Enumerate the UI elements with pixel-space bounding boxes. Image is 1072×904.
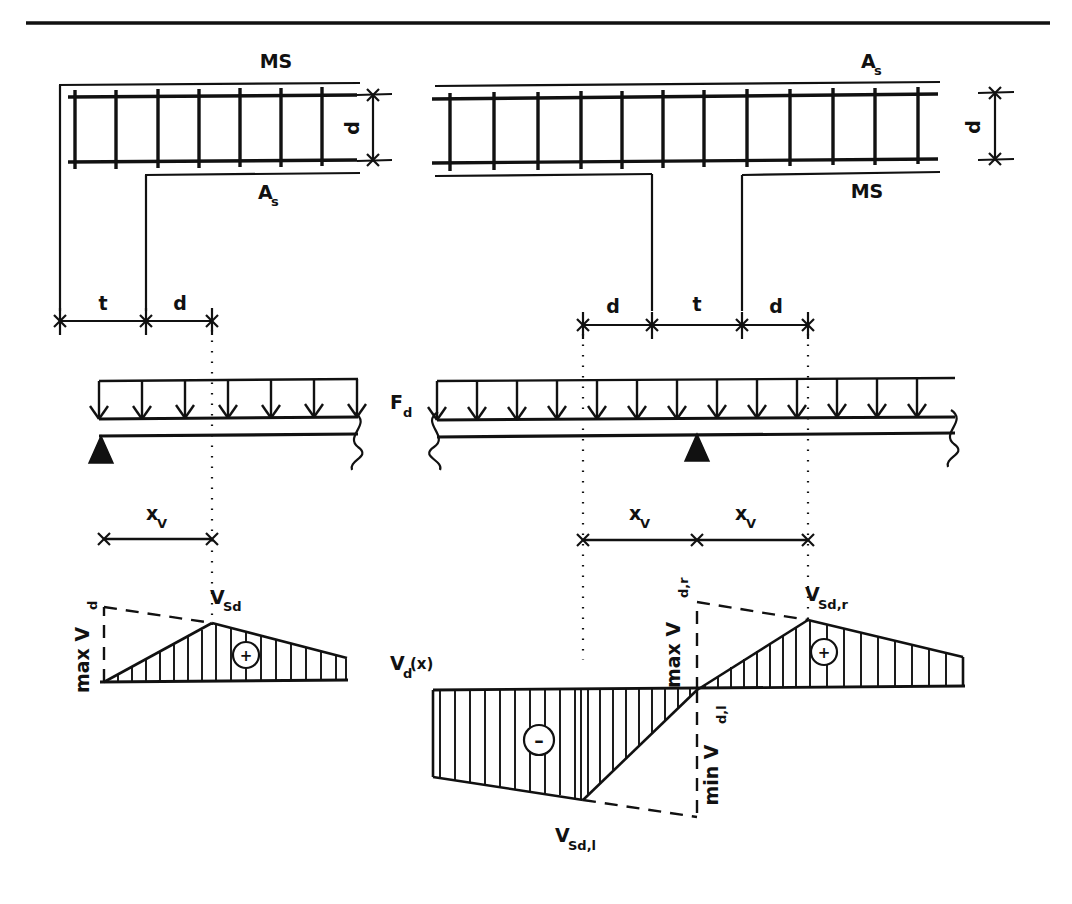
right-shear-positive-rising-branch [697, 620, 808, 690]
right-loaded-beam [428, 378, 958, 470]
left-beam-bottom-rebar [68, 160, 357, 162]
load-arrow [305, 379, 323, 417]
right-beam-bottom-edge-right [742, 172, 940, 175]
load-arrow [348, 379, 366, 417]
load-arrow [708, 379, 726, 418]
right-beam-depth-dimension: d [962, 87, 1014, 165]
load-arrow [548, 380, 566, 419]
left-beam-top-label: MS [260, 50, 293, 72]
load-intensity-label: F d [390, 391, 412, 420]
load-arrow [176, 380, 194, 418]
left-dim-t-label: t [98, 292, 107, 314]
right-shear-negative-hatch-group [440, 689, 690, 799]
right-beam-top-edge [435, 82, 940, 86]
right-min-vdl-label-sub: d,l [714, 705, 729, 724]
right-vsdl-label-sub: Sd,l [568, 838, 596, 853]
left-max-vd-label-main: max V [71, 627, 93, 693]
right-load-arrow-group [428, 378, 926, 420]
right-beam-break-symbol-right [948, 410, 959, 467]
left-loaded-beam [89, 379, 366, 470]
left-beam-depth-dimension: d [341, 89, 392, 166]
load-arrow [219, 380, 237, 418]
right-dim-t-label: t [692, 293, 701, 315]
left-beam-depth-label: d [341, 121, 363, 135]
right-beam-bottom-label: MS [851, 180, 884, 202]
right-min-vdl-label: min V d,l [700, 705, 729, 805]
left-max-vd-label-sub: d [85, 601, 100, 610]
load-arrow [90, 381, 108, 419]
left-beam-bottom-label: A s [258, 181, 279, 209]
load-arrow [868, 378, 886, 417]
right-beam-bottom-rebar [432, 159, 938, 163]
right-shear-axis-label-tail: (x) [410, 655, 433, 673]
load-arrow [508, 381, 526, 420]
left-beam-support-triangle [89, 436, 113, 463]
load-arrow [628, 380, 646, 419]
left-xv-label-sub: V [157, 516, 167, 531]
right-shear-positive-sign-glyph: + [818, 644, 831, 662]
right-max-vdr-label-sub: d,r [676, 577, 691, 598]
right-max-vdr-label-main: max V [662, 622, 684, 688]
figure-canvas: MS A s d [0, 0, 1072, 904]
right-beam-top-rebar [432, 94, 938, 99]
right-xv-right-label-sub: V [746, 516, 756, 531]
right-beam-support-triangle [685, 434, 709, 461]
left-shear-positive-sign: + [233, 642, 259, 668]
right-vsdr-label: V Sd,r [805, 583, 849, 612]
load-arrow [908, 378, 926, 417]
load-arrow [668, 380, 686, 419]
structural-shear-diagram: MS A s d [0, 0, 1072, 904]
right-xv-dimension: x V x V [577, 502, 814, 546]
left-load-arrow-group [90, 379, 366, 419]
load-arrow [588, 380, 606, 419]
right-beam-bottom-edge-left [435, 174, 652, 176]
left-dim-d-label: d [173, 292, 187, 314]
left-shear-diagram: + [100, 607, 348, 682]
left-beam-top-rebar [68, 95, 357, 97]
right-shear-axis-label: V d (x) [390, 652, 433, 681]
load-arrow [748, 379, 766, 418]
right-dimension-chain: d t d [577, 293, 814, 339]
right-beam-depth-label: d [962, 120, 984, 134]
right-dim-d-right-label: d [769, 295, 783, 317]
right-beam-top-label: A s [861, 50, 882, 78]
left-beam-stirrup-group [75, 87, 322, 169]
left-shear-baseline [100, 680, 348, 682]
right-shear-dashed-negative-extension [583, 800, 697, 817]
load-arrow [133, 381, 151, 419]
left-beam-axis [99, 434, 358, 436]
right-max-vdr-label: max V d,r [662, 577, 691, 688]
left-shear-hatch-group [118, 624, 346, 682]
right-vsdl-label: V Sd,l [555, 824, 596, 853]
right-vsdr-label-sub: Sd,r [818, 597, 849, 612]
right-shear-dashed-positive-peak-line [697, 602, 808, 620]
left-vsd-label: V Sd [210, 586, 242, 614]
load-arrow [428, 381, 446, 420]
load-arrow [788, 379, 806, 418]
left-beam-top-edge [59, 83, 360, 85]
load-intensity-label-main: F [390, 391, 403, 413]
left-max-vd-label: max V d [71, 601, 100, 693]
left-beam-elevation [59, 83, 360, 311]
load-arrow [468, 381, 486, 420]
left-shear-dashed-peak-line [104, 607, 212, 623]
right-dim-d-left-label: d [606, 295, 620, 317]
load-arrow [828, 378, 846, 417]
left-beam-bottom-label-sub: s [271, 194, 279, 209]
left-beam-break-symbol [352, 413, 363, 470]
right-shear-negative-sign: – [524, 725, 554, 755]
right-shear-diagram: – + [433, 602, 965, 817]
right-shear-negative-sign-glyph: – [534, 729, 544, 751]
right-min-vdl-label-main: min V [700, 744, 722, 805]
left-shear-rising-branch [104, 623, 212, 682]
right-beam-top-label-sub: s [874, 63, 882, 78]
right-xv-left-label-sub: V [640, 516, 650, 531]
left-shear-positive-sign-glyph: + [240, 647, 253, 665]
right-shear-positive-sign: + [811, 639, 837, 665]
left-beam-bottom-edge [145, 173, 360, 175]
left-vsd-label-sub: Sd [223, 599, 242, 614]
left-xv-dimension: x V [98, 502, 218, 545]
load-intensity-label-sub: d [403, 405, 412, 420]
load-arrow [262, 380, 280, 418]
left-dimension-chain: t d [54, 292, 218, 335]
